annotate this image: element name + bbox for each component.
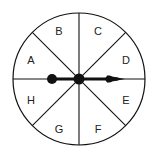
section-label-g: G: [55, 123, 64, 135]
spinner-hub: [74, 74, 85, 85]
section-label-f: F: [95, 123, 102, 135]
section-label-c: C: [94, 25, 102, 37]
section-label-d: D: [122, 54, 130, 66]
section-label-e: E: [122, 94, 129, 106]
spinner-diagram: B C A D H E G F: [0, 0, 149, 159]
arrow-tail-dot: [47, 74, 57, 84]
section-label-b: B: [55, 25, 62, 37]
section-label-h: H: [27, 94, 35, 106]
section-label-a: A: [27, 54, 35, 66]
